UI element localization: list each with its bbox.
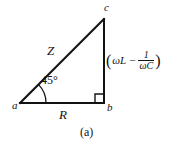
fraction-denominator: ωC — [138, 61, 154, 71]
close-paren: ) — [155, 53, 160, 69]
figure-caption: (a) — [80, 126, 93, 138]
triangle-side-hypotenuse — [20, 19, 104, 103]
vertex-label-c: c — [104, 2, 109, 13]
fraction-numerator: 1 — [142, 50, 151, 60]
fraction-one-over-omega-c: 1 ωC — [138, 50, 154, 71]
open-paren: ( — [106, 53, 111, 69]
angle-label-45-degrees: 45° — [41, 74, 58, 86]
vertex-label-b: b — [107, 102, 113, 113]
impedance-triangle-figure: a b c Z R 45° ( ωL − 1 ωC ) (a) — [0, 0, 177, 148]
omega-l-term: ωL — [112, 55, 126, 66]
angle-arc — [39, 85, 46, 103]
side-label-resistance-r: R — [59, 108, 67, 121]
minus-sign: − — [129, 55, 135, 66]
side-label-impedance-z: Z — [47, 44, 54, 57]
vertex-label-a: a — [12, 100, 18, 111]
right-angle-marker — [95, 94, 104, 103]
side-label-reactance: ( ωL − 1 ωC ) — [106, 50, 161, 71]
